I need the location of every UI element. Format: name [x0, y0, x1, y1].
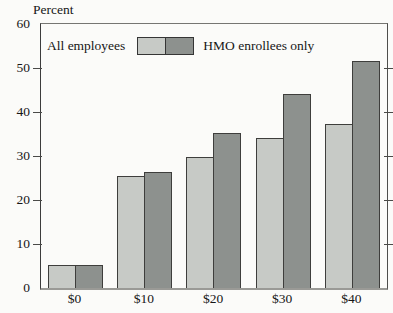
- x-tick-label: $30: [248, 291, 317, 307]
- y-tick-mark-left: [33, 200, 42, 202]
- y-tick-label: 40: [17, 104, 31, 118]
- x-tick-label: $0: [40, 291, 109, 307]
- y-tick-label: 60: [17, 16, 31, 30]
- y-tick-mark-right: [384, 244, 393, 246]
- y-tick-mark-left: [33, 244, 42, 246]
- y-tick-label: 50: [17, 60, 31, 74]
- bar-all-employees-40: [325, 124, 353, 288]
- y-tick-mark-left: [33, 68, 42, 70]
- y-tick-mark-left: [33, 156, 42, 158]
- x-axis-labels: $0$10$20$30$40: [40, 291, 386, 307]
- y-tick-mark-left: [33, 112, 42, 114]
- bar-hmo-enrollees-only-0: [75, 265, 103, 288]
- bar-hmo-enrollees-only-10: [144, 172, 172, 288]
- x-tick-label: $10: [109, 291, 178, 307]
- y-tick-label: 10: [17, 236, 31, 250]
- y-tick-mark-right: [384, 68, 393, 70]
- bar-hmo-enrollees-only-20: [213, 133, 241, 288]
- x-tick-label: $20: [178, 291, 247, 307]
- y-tick-mark-right: [384, 200, 393, 202]
- bar-group-20: [186, 24, 241, 288]
- y-tick-label: 0: [23, 280, 30, 294]
- bar-group-10: [117, 24, 172, 288]
- y-tick-mark-right: [384, 112, 393, 114]
- y-tick-label: 20: [17, 192, 31, 206]
- bar-hmo-enrollees-only-30: [283, 94, 311, 288]
- bar-group-40: [325, 24, 380, 288]
- bar-all-employees-30: [256, 138, 284, 288]
- bar-hmo-enrollees-only-40: [352, 61, 380, 288]
- x-tick-label: $40: [317, 291, 386, 307]
- chart-figure: Percent 0102030405060 All employees HMO …: [0, 0, 393, 313]
- y-tick-label: 30: [17, 148, 31, 162]
- y-axis-title: Percent: [33, 3, 73, 18]
- plot-area: All employees HMO enrollees only: [40, 23, 388, 290]
- bar-groups: [41, 24, 387, 288]
- bar-all-employees-10: [117, 176, 145, 288]
- bar-all-employees-0: [48, 265, 76, 288]
- y-tick-mark-right: [384, 156, 393, 158]
- bar-all-employees-20: [186, 157, 214, 288]
- bar-group-0: [48, 24, 103, 288]
- bar-group-30: [256, 24, 311, 288]
- y-axis-labels: 0102030405060: [0, 23, 36, 287]
